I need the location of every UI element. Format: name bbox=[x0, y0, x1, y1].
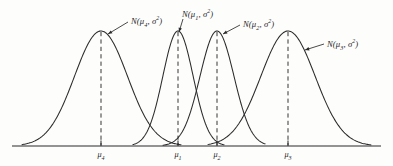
mean-dashed-lines-group bbox=[101, 32, 288, 145]
distribution-curve-2 bbox=[133, 31, 224, 145]
x-tick-label-mu2: μ2 bbox=[213, 150, 220, 161]
curves-group bbox=[22, 31, 371, 145]
curve-label-mu1: N(μ1, σ2) bbox=[182, 8, 213, 21]
leader-arrowhead-3 bbox=[223, 31, 228, 35]
x-axis-group bbox=[12, 141, 381, 147]
x-tick-label-mu4: μ4 bbox=[97, 150, 104, 161]
curve-label-mu3: N(μ3, σ2) bbox=[327, 38, 358, 51]
leader-arrowhead-4 bbox=[305, 47, 310, 50]
plot-canvas bbox=[0, 0, 393, 166]
leader-arrowhead-2 bbox=[179, 28, 182, 33]
curve-label-mu2: N(μ2, σ2) bbox=[243, 18, 274, 31]
normal-distributions-figure: N(μ4, σ2) N(μ1, σ2) N(μ2, σ2) N(μ3, σ2) … bbox=[0, 0, 393, 166]
curve-label-mu4: N(μ4, σ2) bbox=[131, 15, 162, 28]
distribution-curve-1 bbox=[22, 31, 181, 145]
x-tick-label-mu1: μ1 bbox=[174, 150, 181, 161]
x-tick-label-mu3: μ3 bbox=[284, 150, 291, 161]
